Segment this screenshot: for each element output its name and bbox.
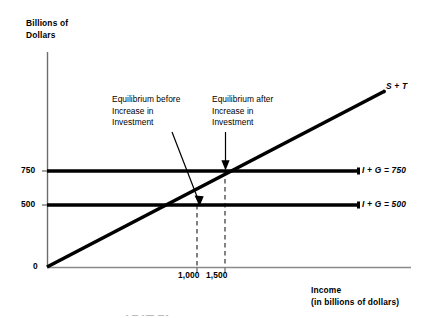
caption-partial-cutoff: ـ ـــ ــــ ـ ـــ ـ bbox=[126, 309, 301, 318]
x-axis-title: Income (in billions of dollars) bbox=[311, 285, 399, 308]
x-tick-label-1000: 1,000 bbox=[178, 270, 199, 282]
annotation-equilibrium-after: Equilibrium after Increase in Investment bbox=[212, 94, 273, 129]
x-tick-label-1500: 1,500 bbox=[206, 270, 227, 282]
y-tick-label-500: 500 bbox=[21, 199, 35, 211]
series-label-marker-ig500 bbox=[357, 202, 360, 209]
arrow-head-equilibrium-after bbox=[221, 160, 229, 170]
y-axis-title: Billions of Dollars bbox=[26, 18, 68, 41]
series-label-i-plus-g-750: I + G = 750 bbox=[362, 165, 406, 177]
chart-figure: Billions of Dollars Income (in billions … bbox=[0, 0, 445, 318]
arrow-line-equilibrium-before bbox=[172, 132, 200, 203]
series-label-s-plus-t: S + T bbox=[386, 81, 407, 93]
series-label-marker-ig750 bbox=[357, 168, 360, 175]
y-tick-label-750: 750 bbox=[21, 165, 35, 177]
series-label-i-plus-g-500: I + G = 500 bbox=[362, 199, 406, 211]
y-tick-label-0: 0 bbox=[33, 261, 38, 273]
annotation-equilibrium-before: Equilibrium before Increase in Investmen… bbox=[112, 94, 180, 129]
